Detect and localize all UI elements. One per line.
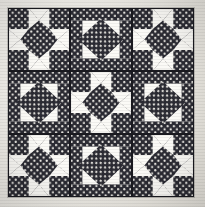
quilt-block-shoofly: [132, 134, 194, 197]
quilt-block-shoofly: [8, 134, 70, 197]
quilt-block-onpoint: [132, 71, 194, 134]
quilt-block-onpoint: [70, 134, 132, 197]
quilt-block-grid: [8, 8, 194, 197]
quilt-block-shoofly: [132, 8, 194, 71]
quilt-photograph: [0, 0, 205, 207]
quilt-block-shoofly: [70, 71, 132, 134]
quilt-block-onpoint: [8, 71, 70, 134]
quilt-top: [8, 8, 194, 197]
quilt-block-shoofly: [8, 8, 70, 71]
quilt-block-onpoint: [70, 8, 132, 71]
